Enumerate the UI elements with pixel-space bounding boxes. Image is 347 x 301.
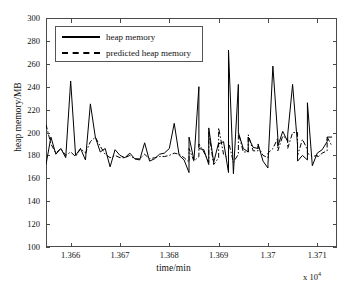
y-tick-mark: [46, 247, 50, 248]
y-tick-label: 120: [6, 220, 40, 229]
x-tick-label: 1.37: [248, 251, 288, 260]
legend-label-predicted-heap-memory: predicted heap memory: [106, 47, 191, 59]
chart-figure: heap memory/MB 3002802602402202001801601…: [0, 0, 347, 301]
x-axis-multiplier: x 104: [303, 271, 321, 282]
x-tick-label: 1.368: [149, 251, 189, 260]
y-tick-mark: [333, 247, 337, 248]
x-axis-title: time/min: [0, 263, 347, 273]
x-tick-label: 1.371: [297, 251, 337, 260]
x-tick-label: 1.366: [51, 251, 91, 260]
y-tick-label: 220: [6, 106, 40, 115]
legend-swatch-dashdot-icon: [62, 52, 100, 54]
legend: heap memory predicted heap memory: [55, 26, 203, 62]
x-axis-multiplier-base: x 10: [303, 272, 318, 282]
y-axis-title: heap memory/MB: [13, 52, 23, 182]
y-tick-label: 200: [6, 129, 40, 138]
legend-item-predicted-heap-memory: predicted heap memory: [56, 45, 202, 61]
legend-item-heap-memory: heap memory: [56, 29, 202, 45]
x-tick-label: 1.369: [199, 251, 239, 260]
y-tick-label: 180: [6, 151, 40, 160]
y-tick-label: 100: [6, 243, 40, 252]
x-tick-label: 1.367: [100, 251, 140, 260]
series-line-heap-memory: [46, 50, 332, 174]
y-tick-label: 140: [6, 197, 40, 206]
x-axis-multiplier-exponent: 4: [318, 271, 321, 277]
y-tick-label: 160: [6, 174, 40, 183]
legend-label-heap-memory: heap memory: [106, 31, 155, 43]
y-tick-label: 300: [6, 14, 40, 23]
legend-swatch-solid-icon: [62, 36, 100, 38]
y-tick-label: 260: [6, 60, 40, 69]
y-tick-label: 280: [6, 37, 40, 46]
y-tick-label: 240: [6, 83, 40, 92]
